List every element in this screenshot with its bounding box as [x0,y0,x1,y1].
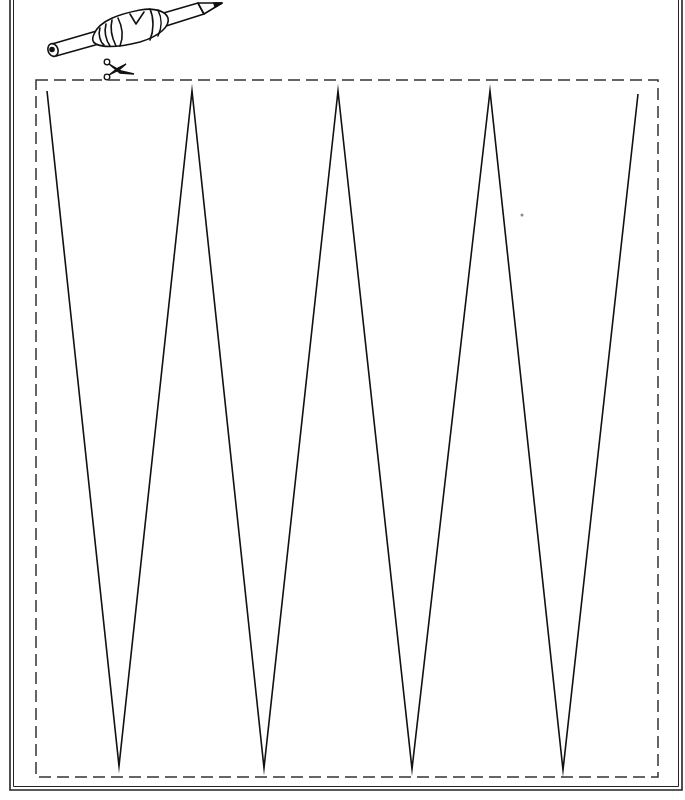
paper-speck [521,214,524,217]
zigzag-tracing-line [47,91,638,770]
tracing-worksheet [0,0,685,800]
scissors-icon [104,59,134,80]
page-frame [10,0,682,790]
pencil-with-grip-icon [46,3,222,58]
